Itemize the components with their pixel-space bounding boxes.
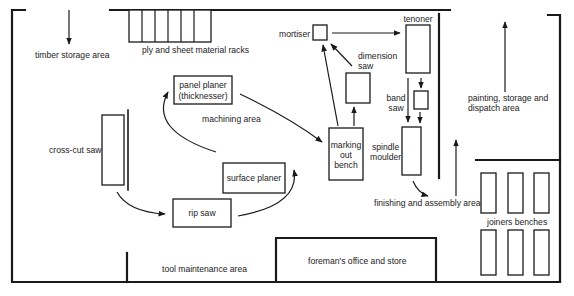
label-marking-3: bench bbox=[334, 160, 358, 170]
dimension-saw-box bbox=[346, 73, 370, 103]
arrow-spindle-to-finishing bbox=[413, 181, 428, 196]
label-marking-1: marking bbox=[331, 140, 362, 150]
label-machining-area: machining area bbox=[202, 114, 261, 124]
label-surface-planer: surface planer bbox=[227, 173, 282, 183]
label-mortiser: mortiser bbox=[279, 29, 310, 39]
wall-right bbox=[548, 15, 560, 282]
label-tool-maintenance: tool maintenance area bbox=[162, 264, 247, 274]
label-foreman-office: foreman's office and store bbox=[308, 256, 407, 266]
label-painting-1: painting, storage and bbox=[468, 93, 548, 103]
label-dimension-saw-1: dimension bbox=[358, 51, 397, 61]
label-finishing-assembly: finishing and assembly area bbox=[374, 198, 481, 208]
label-spindle-2: moulder bbox=[370, 152, 401, 162]
label-painting-2: dispatch area bbox=[468, 103, 520, 113]
label-spindle-1: spindle bbox=[372, 142, 399, 152]
label-marking-2: out bbox=[340, 150, 353, 160]
label-dimension-saw-2: saw bbox=[358, 61, 374, 71]
arrow-crosscut-to-ripsaw bbox=[117, 192, 165, 214]
label-panel-planer-1: panel planer bbox=[179, 80, 226, 90]
ply-sheet-racks bbox=[129, 10, 211, 42]
label-cross-cut-saw: cross-cut saw bbox=[49, 145, 102, 155]
label-joiners-benches: joiners benches bbox=[486, 217, 547, 227]
band-saw-box bbox=[414, 91, 428, 109]
label-timber-storage: timber storage area bbox=[35, 50, 110, 60]
spindle-moulder-box bbox=[402, 127, 421, 175]
label-ply-racks: ply and sheet material racks bbox=[142, 45, 249, 55]
label-tenoner: tenoner bbox=[403, 14, 432, 24]
label-panel-planer-2: (thicknesser) bbox=[178, 91, 227, 101]
mortiser-box bbox=[313, 25, 327, 40]
cross-cut-saw-box bbox=[102, 115, 124, 185]
label-band-saw-2: saw bbox=[388, 103, 404, 113]
workshop-floor-plan: timber storage area ply and sheet materi… bbox=[0, 0, 574, 296]
arrow-marking-to-mortiser bbox=[323, 45, 338, 126]
label-rip-saw: rip saw bbox=[188, 208, 216, 218]
tenoner-box bbox=[406, 25, 430, 73]
label-band-saw-1: band bbox=[386, 93, 405, 103]
arrow-dimension-to-mortiser bbox=[331, 44, 352, 66]
